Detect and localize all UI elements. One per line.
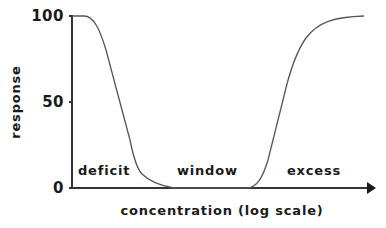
y-tick-label-100: 100 <box>31 7 64 25</box>
x-axis-label: concentration (log scale) <box>120 203 323 218</box>
region-label-deficit: deficit <box>78 163 130 178</box>
chart-canvas: 100 50 0 response concentration (log sca… <box>0 0 386 228</box>
y-tick-label-50: 50 <box>42 93 64 111</box>
y-axis-label: response <box>8 65 23 138</box>
region-label-excess: excess <box>287 163 341 178</box>
x-axis-arrow-icon <box>367 182 376 194</box>
region-label-window: window <box>177 163 238 178</box>
y-tick-label-0: 0 <box>53 179 64 197</box>
